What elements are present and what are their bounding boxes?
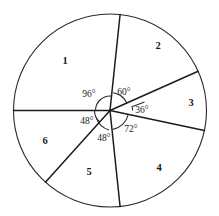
sector-label-1: 1 [62, 55, 67, 66]
angle-label-48-lower: 48° [97, 133, 111, 143]
sector-label-2: 2 [155, 40, 160, 51]
angle-label-72: 72° [124, 124, 138, 134]
pie-chart-svg: 1 2 3 4 5 6 96° 60° 36° 72° 48° 48° [0, 0, 219, 216]
angle-label-48-left: 48° [80, 116, 94, 126]
sector-label-6: 6 [42, 135, 47, 146]
angle-arc-36 [132, 106, 133, 111]
angle-label-96: 96° [82, 89, 96, 99]
pie-chart-figure: 1 2 3 4 5 6 96° 60° 36° 72° 48° 48° [0, 0, 219, 216]
angle-arc-96 [96, 96, 112, 110]
radius-boundary-neg84 [110, 111, 120, 207]
radius-boundary-neg132 [45, 111, 110, 183]
sector-label-4: 4 [156, 162, 162, 173]
sector-label-3: 3 [188, 97, 193, 108]
angle-label-36: 36° [135, 105, 149, 115]
sector-label-5: 5 [86, 166, 91, 177]
angle-label-60: 60° [117, 87, 131, 97]
